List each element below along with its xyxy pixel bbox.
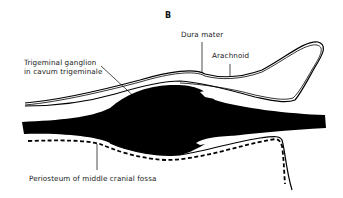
ganglion-label-line2: in cavum trigeminale: [24, 67, 102, 76]
ganglion-label-line1: Trigeminal ganglion: [24, 58, 96, 67]
panel-label: B: [165, 11, 171, 20]
trigeminal-ganglion-diagram: [0, 0, 343, 198]
trigeminal-ganglion-shape: [22, 85, 326, 156]
arachnoid-label: Arachnoid: [212, 51, 249, 60]
dura-mater-label: Dura mater: [181, 30, 223, 39]
periosteum-label: Periosteum of middle cranial fossa: [29, 174, 157, 183]
